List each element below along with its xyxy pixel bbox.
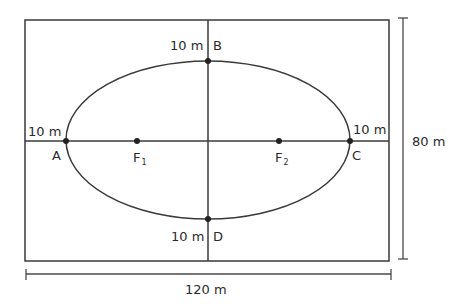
point-b-label: B — [213, 38, 222, 53]
point-c-offset-label: 10 m — [353, 122, 386, 137]
point-d-offset-label: 10 m — [171, 229, 204, 244]
point-a-label: A — [52, 148, 61, 163]
point-b-offset-label: 10 m — [170, 38, 203, 53]
focus-f1-label: F1 — [133, 150, 147, 167]
point-c-marker — [347, 138, 353, 144]
height-label: 80 m — [412, 134, 445, 149]
ellipse-diagram: A 10 m B 10 m C 10 m D 10 m F1 F2 80 m 1… — [0, 0, 465, 304]
point-a-marker — [63, 138, 69, 144]
height-dimension: 80 m — [398, 18, 445, 259]
focus-f2-marker — [276, 138, 282, 144]
point-b-marker — [205, 58, 211, 64]
focus-f2-subscript: 2 — [283, 158, 288, 167]
width-dimension: 120 m — [26, 269, 391, 297]
focus-f1-marker — [134, 138, 140, 144]
point-a-offset-label: 10 m — [28, 124, 61, 139]
width-label: 120 m — [185, 282, 227, 297]
focus-f2-letter: F — [275, 150, 282, 165]
focus-f2-label: F2 — [275, 150, 289, 167]
focus-f1-letter: F — [133, 150, 140, 165]
focus-f1-subscript: 1 — [141, 158, 146, 167]
point-c-label: C — [352, 148, 361, 163]
point-d-label: D — [213, 229, 223, 244]
point-d-marker — [205, 216, 211, 222]
